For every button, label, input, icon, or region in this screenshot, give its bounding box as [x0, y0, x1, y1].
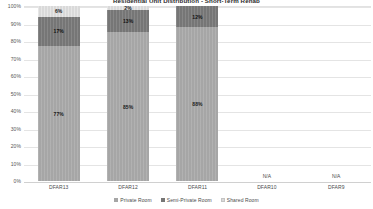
y-axis-tick-label: 30%	[11, 126, 21, 132]
y-axis-tick-label: 0%	[14, 178, 21, 184]
chart-title: Residential Unit Distribution - Short-Te…	[0, 0, 373, 5]
bar-segment-value-label: 17%	[38, 28, 80, 34]
bar-segment-semi-private-room[interactable]: 13%	[107, 10, 149, 33]
bar-segment-value-label: 6%	[38, 8, 80, 14]
legend-swatch-icon	[221, 198, 225, 202]
bar-segment-value-label: 77%	[38, 111, 80, 117]
y-axis-tick-label: 40%	[11, 108, 21, 114]
bar-column-dfar13[interactable]: 77%17%6%	[24, 6, 93, 181]
legend-item-private-room[interactable]: Private Room	[114, 197, 152, 203]
x-axis-label-dfar13: DFAR13	[24, 184, 93, 190]
y-axis-tick-label: 50%	[11, 91, 21, 97]
legend-swatch-icon	[161, 198, 165, 202]
bar-segment-private-room[interactable]: 77%	[38, 46, 80, 181]
legend-label: Shared Room	[227, 197, 259, 203]
chart-legend: Private RoomSemi-Private RoomShared Room	[0, 197, 373, 203]
x-axis-label-dfar9: DFAR9	[302, 184, 371, 190]
gridline-0	[24, 182, 371, 183]
y-axis-labels: 100%90%80%70%60%50%40%30%20%10%0%	[0, 6, 24, 181]
stacked-bar[interactable]: 85%13%2%	[107, 6, 149, 181]
bar-segment-value-label: 88%	[176, 101, 218, 107]
bar-segment-private-room[interactable]: 85%	[107, 32, 149, 181]
x-axis-label-dfar11: DFAR11	[163, 184, 232, 190]
bar-segment-value-label: 13%	[107, 18, 149, 24]
bar-segment-shared-room[interactable]: 2%	[107, 6, 149, 10]
bar-segment-shared-room[interactable]: 6%	[38, 6, 80, 17]
y-axis-tick-label: 10%	[11, 161, 21, 167]
bar-segment-semi-private-room[interactable]: 12%	[176, 6, 218, 27]
bar-column-dfar11[interactable]: 88%12%	[163, 6, 232, 181]
x-axis-category-labels: DFAR13DFAR12DFAR11DFAR10DFAR9	[24, 184, 371, 194]
legend-item-shared-room[interactable]: Shared Room	[221, 197, 259, 203]
legend-label: Semi-Private Room	[167, 197, 212, 203]
bar-segment-private-room[interactable]: 88%	[176, 27, 218, 181]
chart-container: Residential Unit Distribution - Short-Te…	[0, 0, 373, 209]
bar-column-dfar9[interactable]: N/A	[302, 6, 371, 181]
y-axis-tick-label: 100%	[8, 3, 21, 9]
stacked-bar[interactable]: 77%17%6%	[38, 6, 80, 181]
bar-segment-value-label: 12%	[176, 14, 218, 20]
y-axis-tick-label: 60%	[11, 73, 21, 79]
y-axis-tick-label: 20%	[11, 143, 21, 149]
stacked-bar[interactable]: 88%12%	[176, 6, 218, 181]
y-axis-tick-label: 90%	[11, 21, 21, 27]
y-axis-tick-label: 80%	[11, 38, 21, 44]
bar-column-dfar10[interactable]: N/A	[232, 6, 301, 181]
na-marker: N/A	[263, 173, 271, 179]
bar-columns: 77%17%6%85%13%2%88%12%N/AN/A	[24, 6, 371, 181]
bar-column-dfar12[interactable]: 85%13%2%	[93, 6, 162, 181]
legend-item-semi-private-room[interactable]: Semi-Private Room	[161, 197, 212, 203]
bar-segment-value-label: 85%	[107, 104, 149, 110]
bar-segment-semi-private-room[interactable]: 17%	[38, 17, 80, 47]
legend-label: Private Room	[120, 197, 152, 203]
x-axis-label-dfar12: DFAR12	[93, 184, 162, 190]
na-marker: N/A	[332, 173, 340, 179]
x-axis-label-dfar10: DFAR10	[232, 184, 301, 190]
bar-segment-value-label: 2%	[107, 6, 149, 10]
legend-swatch-icon	[114, 198, 118, 202]
y-axis-tick-label: 70%	[11, 56, 21, 62]
